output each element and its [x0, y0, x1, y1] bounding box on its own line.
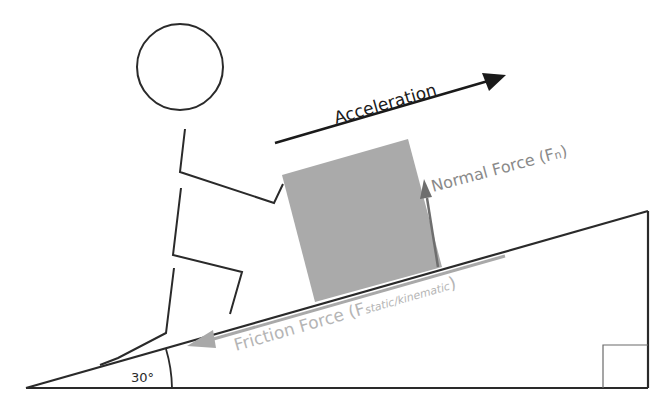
- angle-arc: [166, 349, 172, 388]
- arrowhead-icon: [187, 330, 216, 348]
- front-leg: [100, 268, 174, 365]
- incline-diagram: Acceleration Normal Force (Fn) Friction …: [0, 0, 661, 410]
- right-angle-marker: [603, 345, 648, 388]
- angle-label: 30°: [131, 370, 154, 385]
- acceleration-label: Acceleration: [332, 80, 439, 128]
- normal-force-label: Normal Force (Fn): [429, 141, 569, 196]
- rear-leg: [173, 188, 242, 314]
- arm: [180, 129, 283, 203]
- arrowhead-icon: [482, 73, 506, 91]
- head: [137, 24, 223, 110]
